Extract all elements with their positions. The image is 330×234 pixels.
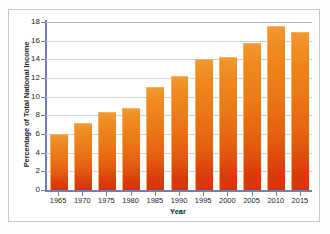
y-axis-tick-label: 6 [14, 129, 40, 138]
bar-2000 [219, 57, 237, 190]
y-axis-tick-label: 18 [14, 17, 40, 26]
y-axis-tick-mark [41, 41, 46, 42]
y-axis-tick-mark [41, 59, 46, 60]
y-axis-tick-label: 2 [14, 166, 40, 175]
y-axis-tick-label: 0 [14, 185, 40, 194]
y-axis-tick-mark [41, 153, 46, 154]
bar-1980 [122, 108, 140, 190]
y-axis-tick-labels: 024681012141618 [8, 0, 40, 234]
y-axis-tick-label: 16 [14, 36, 40, 45]
x-axis-tick-label: 2015 [285, 196, 315, 205]
y-axis-tick-label: 4 [14, 148, 40, 157]
bar-1965 [50, 134, 68, 190]
y-axis-tick-mark [41, 78, 46, 79]
chart-figure: Percentage of Total National Income 0246… [0, 0, 330, 234]
y-axis-tick-label: 12 [14, 73, 40, 82]
x-axis-title: Year [44, 207, 312, 216]
y-axis-tick-mark [41, 22, 46, 23]
y-axis-tick-mark [41, 171, 46, 172]
y-axis-tick-mark [41, 134, 46, 135]
y-axis-tick-label: 14 [14, 54, 40, 63]
bar-1975 [98, 112, 116, 190]
bar-2015 [291, 32, 309, 190]
y-axis-tick-label: 10 [14, 92, 40, 101]
bar-2005 [243, 43, 261, 190]
bar-1990 [171, 76, 189, 190]
y-axis-tick-label: 8 [14, 110, 40, 119]
y-axis-tick-mark [41, 97, 46, 98]
bar-1995 [195, 59, 213, 190]
bar-1970 [74, 123, 92, 190]
bar-1985 [146, 87, 164, 190]
plot-area [46, 22, 312, 190]
y-axis-tick-mark [41, 115, 46, 116]
y-axis-tick-mark [41, 190, 46, 191]
bar-2010 [267, 26, 285, 190]
gridline [46, 22, 312, 23]
